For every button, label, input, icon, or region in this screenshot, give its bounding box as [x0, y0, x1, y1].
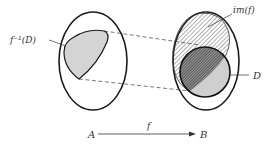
- preimage-leader-line: [49, 40, 66, 46]
- preimage-region: [64, 30, 108, 79]
- arrow-head-icon: [189, 132, 196, 137]
- label-subset: D: [230, 70, 261, 81]
- subset-label: D: [252, 70, 261, 81]
- preimage-label: f⁻¹(D): [9, 35, 36, 45]
- function-label: f: [146, 121, 152, 131]
- projection-line-bottom: [79, 79, 190, 91]
- mapping-arrow: A f B: [87, 121, 207, 140]
- domain-label: A: [87, 129, 95, 140]
- image-label: im(f): [233, 5, 255, 15]
- label-preimage: f⁻¹(D): [9, 35, 66, 46]
- function-preimage-diagram: f⁻¹(D) im(f) D B --> A f B: [0, 0, 277, 145]
- codomain-label: B: [199, 129, 207, 140]
